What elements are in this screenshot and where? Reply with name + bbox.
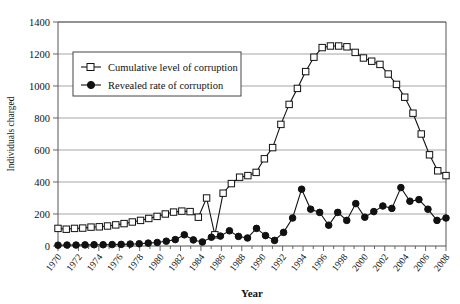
- figure-container: 0200400600800100012001400 19701972197419…: [0, 0, 460, 304]
- y-tick-label: 800: [34, 113, 50, 124]
- x-tick-label: 1992: [269, 252, 289, 273]
- data-point-open-square: [360, 55, 366, 61]
- data-point-filled-circle: [271, 237, 278, 244]
- data-point-filled-circle: [361, 214, 368, 221]
- data-point-open-square: [88, 224, 94, 230]
- x-tick-label: 1998: [330, 252, 350, 273]
- series-revealed: [55, 184, 450, 248]
- x-tick-label: 1980: [146, 252, 166, 273]
- data-point-filled-circle: [253, 225, 260, 232]
- data-point-filled-circle: [172, 236, 179, 243]
- data-point-open-square: [187, 208, 193, 214]
- data-point-filled-circle: [316, 209, 323, 216]
- open-square-icon: [87, 64, 94, 71]
- x-tick-label: 1986: [207, 252, 227, 273]
- data-point-filled-circle: [235, 233, 242, 240]
- y-tick-label: 1000: [29, 81, 50, 92]
- data-point-filled-circle: [307, 206, 314, 213]
- data-point-filled-circle: [55, 242, 62, 249]
- data-point-open-square: [55, 225, 61, 231]
- data-point-filled-circle: [334, 209, 341, 216]
- data-point-filled-circle: [443, 215, 450, 222]
- data-point-open-square: [377, 61, 383, 67]
- data-point-filled-circle: [109, 241, 116, 248]
- data-point-open-square: [162, 211, 168, 217]
- data-point-open-square: [104, 223, 110, 229]
- data-point-filled-circle: [163, 238, 170, 245]
- data-point-filled-circle: [343, 217, 350, 224]
- x-tick-label: 2000: [350, 252, 370, 273]
- data-point-open-square: [443, 172, 449, 178]
- data-point-open-square: [261, 156, 267, 162]
- data-point-open-square: [278, 121, 284, 127]
- data-point-open-square: [369, 58, 375, 64]
- y-ticks-group: 0200400600800100012001400: [29, 17, 58, 252]
- y-tick-label: 1200: [29, 49, 50, 60]
- data-point-open-square: [220, 190, 226, 196]
- data-point-filled-circle: [82, 242, 89, 249]
- data-point-open-square: [195, 214, 201, 220]
- data-point-filled-circle: [208, 234, 215, 241]
- figure-caption: [0, 296, 460, 304]
- data-point-open-square: [245, 172, 251, 178]
- data-point-open-square: [80, 225, 86, 231]
- data-point-open-square: [286, 101, 292, 107]
- data-point-open-square: [146, 215, 152, 221]
- data-point-open-square: [352, 49, 358, 55]
- x-tick-label: 1988: [228, 252, 248, 273]
- data-point-open-square: [294, 85, 300, 91]
- data-point-open-square: [402, 94, 408, 100]
- data-point-open-square: [96, 224, 102, 230]
- data-point-open-square: [253, 169, 259, 175]
- data-point-filled-circle: [280, 229, 287, 236]
- data-point-open-square: [435, 168, 441, 174]
- data-point-filled-circle: [118, 241, 125, 248]
- data-point-filled-circle: [434, 217, 441, 224]
- y-axis-title: Individuals charged: [6, 96, 16, 171]
- data-point-filled-circle: [226, 228, 233, 235]
- x-tick-label: 2008: [432, 252, 452, 273]
- x-tick-labels-group: 1970197219741976197819801982198419861988…: [44, 252, 452, 273]
- data-point-open-square: [393, 81, 399, 87]
- data-point-open-square: [327, 43, 333, 49]
- data-point-open-square: [311, 54, 317, 60]
- data-point-open-square: [335, 43, 341, 49]
- x-tick-label: 1970: [44, 252, 64, 273]
- data-point-open-square: [236, 174, 242, 180]
- data-point-filled-circle: [100, 241, 107, 248]
- data-point-open-square: [129, 219, 135, 225]
- filled-circle-icon: [87, 81, 94, 88]
- data-point-filled-circle: [217, 233, 224, 240]
- data-point-open-square: [228, 180, 234, 186]
- data-point-open-square: [426, 152, 432, 158]
- data-point-filled-circle: [127, 241, 134, 248]
- data-point-filled-circle: [145, 240, 152, 247]
- y-tick-label: 1400: [29, 17, 50, 28]
- x-tick-label: 1984: [187, 252, 207, 273]
- data-point-filled-circle: [244, 235, 251, 242]
- x-tick-label: 2002: [371, 252, 391, 273]
- x-ticks-group: [58, 246, 446, 251]
- x-tick-label: 2004: [391, 252, 411, 273]
- y-tick-label: 600: [34, 145, 50, 156]
- data-point-filled-circle: [416, 196, 423, 203]
- y-tick-label: 400: [34, 177, 50, 188]
- data-point-open-square: [418, 131, 424, 137]
- data-point-filled-circle: [325, 222, 332, 229]
- x-tick-label: 1994: [289, 252, 309, 273]
- data-point-filled-circle: [352, 200, 359, 207]
- data-point-open-square: [170, 209, 176, 215]
- data-point-open-square: [113, 222, 119, 228]
- data-point-filled-circle: [190, 237, 197, 244]
- data-point-filled-circle: [407, 198, 414, 205]
- data-point-open-square: [410, 110, 416, 116]
- data-point-filled-circle: [199, 239, 206, 246]
- x-tick-label: 1974: [85, 252, 105, 273]
- data-point-filled-circle: [425, 206, 432, 213]
- legend-label-cumulative: Cumulative level of corruption: [108, 62, 239, 73]
- data-point-filled-circle: [262, 232, 269, 239]
- x-tick-label: 1976: [105, 252, 125, 273]
- gridlines-group: [58, 22, 446, 214]
- data-point-filled-circle: [181, 232, 188, 239]
- x-tick-label: 1990: [248, 252, 268, 273]
